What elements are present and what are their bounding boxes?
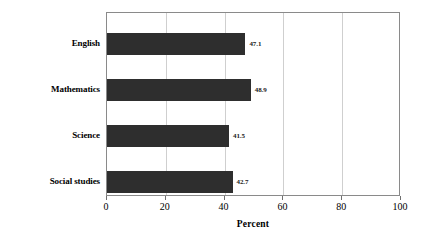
category-label-english: English bbox=[72, 38, 100, 48]
x-axis-title: Percent bbox=[106, 219, 400, 229]
bar-row: 47.1 bbox=[107, 33, 401, 55]
x-tick-label: 80 bbox=[336, 201, 346, 212]
tick-mark bbox=[400, 196, 401, 200]
x-tick-label: 60 bbox=[277, 201, 287, 212]
x-tick-label: 40 bbox=[219, 201, 229, 212]
bar-chart-figure: EnglishMathematicsScienceSocial studies … bbox=[0, 0, 427, 242]
bar-value-label: 47.1 bbox=[249, 40, 261, 48]
bar-value-label: 42.7 bbox=[237, 178, 249, 186]
x-tick-label: 100 bbox=[393, 201, 408, 212]
tick-mark bbox=[341, 196, 342, 200]
tick-mark bbox=[106, 196, 107, 200]
plot-area: 47.148.941.542.7 bbox=[106, 12, 400, 196]
bar-row: 48.9 bbox=[107, 79, 401, 101]
bar-row: 42.7 bbox=[107, 171, 401, 193]
tick-mark bbox=[165, 196, 166, 200]
category-label-social-studies: Social studies bbox=[50, 176, 100, 186]
tick-mark bbox=[282, 196, 283, 200]
category-label-science: Science bbox=[72, 130, 100, 140]
x-axis-ticks: 020406080100 bbox=[106, 196, 400, 201]
bar-social-studies bbox=[107, 171, 233, 193]
bar-mathematics bbox=[107, 79, 251, 101]
bar-english bbox=[107, 33, 245, 55]
bar-science bbox=[107, 125, 229, 147]
category-axis-labels: EnglishMathematicsScienceSocial studies bbox=[0, 12, 100, 196]
category-label-mathematics: Mathematics bbox=[51, 84, 100, 94]
bar-value-label: 48.9 bbox=[255, 86, 267, 94]
bar-value-label: 41.5 bbox=[233, 132, 245, 140]
bar-row: 41.5 bbox=[107, 125, 401, 147]
tick-mark bbox=[224, 196, 225, 200]
x-tick-label: 0 bbox=[104, 201, 109, 212]
x-tick-label: 20 bbox=[160, 201, 170, 212]
